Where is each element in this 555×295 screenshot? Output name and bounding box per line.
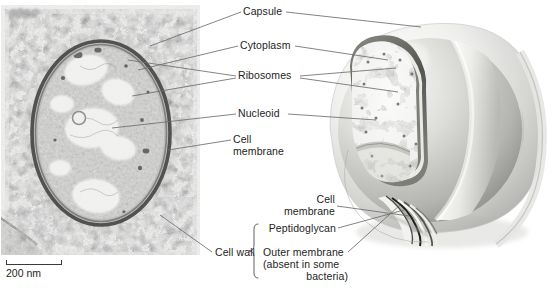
label-outer-membrane-line1: Outer membrane — [263, 246, 344, 258]
label-nucleoid: Nucleoid — [238, 107, 280, 119]
leader-outer-membrane — [348, 205, 400, 252]
leader-capsule-right — [286, 12, 421, 27]
scale-bar: 200 nm — [6, 259, 62, 279]
leader-cell-membrane-lower — [337, 206, 409, 216]
leader-cytoplasm-left — [138, 46, 238, 70]
label-cell-membrane-lower-line1: Cell — [240, 193, 335, 205]
label-cell-membrane-line2: membrane — [233, 145, 284, 157]
label-outer-membrane-line2: (absent in some — [263, 258, 339, 270]
leader-peptidoglycan — [338, 210, 404, 228]
label-cell-wall: Cell wall — [215, 246, 255, 258]
label-ribosomes: Ribosomes — [238, 69, 291, 81]
leader-capsule-left — [150, 12, 241, 46]
leader-cell-wall-left — [160, 215, 212, 252]
leader-cytoplasm-right — [295, 46, 388, 60]
label-capsule: Capsule — [243, 5, 282, 17]
leader-nucleoid-left — [112, 114, 236, 128]
label-outer-membrane-line3: bacteria) — [263, 270, 348, 282]
label-cell-membrane-line1: Cell — [233, 133, 252, 145]
leader-ribosomes-right-a — [300, 68, 396, 76]
label-cytoplasm: Cytoplasm — [240, 39, 291, 51]
scale-bar-label: 200 nm — [6, 267, 62, 279]
label-peptidoglycan: Peptidoglycan — [240, 222, 336, 234]
leader-cell-membrane-left — [168, 140, 231, 150]
leader-nucleoid-right — [288, 114, 376, 120]
scale-bar-line — [6, 259, 62, 266]
leader-ribosomes-left-a — [128, 60, 236, 76]
leader-ribosomes-left-b — [132, 78, 236, 96]
label-cell-membrane-lower-line2: membrane — [240, 205, 335, 217]
bacterial-cell-figure: Capsule Cytoplasm Ribosomes Nucleoid Cel… — [0, 0, 555, 295]
leader-ribosomes-right-b — [300, 78, 398, 92]
